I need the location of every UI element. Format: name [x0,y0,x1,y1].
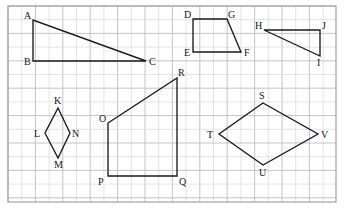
vertex-label-v: V [321,129,329,140]
quad-opqr [108,78,177,176]
vertex-label-q: Q [179,176,187,187]
vertex-label-b: B [24,56,31,67]
geometry-figure: ABCDGFEHJIKNMLORQPSVUT [0,0,344,209]
vertex-label-h: H [255,20,262,31]
vertex-label-g: G [228,9,235,20]
vertex-label-i: I [317,57,320,68]
vertex-label-t: T [207,129,213,140]
vertex-label-a: A [24,10,32,21]
vertex-label-f: F [244,47,250,58]
worksheet-canvas: ABCDGFEHJIKNMLORQPSVUT [0,0,344,209]
triangle-abc [33,20,146,61]
vertex-label-p: P [98,176,104,187]
vertex-label-l: L [34,128,40,139]
vertex-label-n: N [72,128,79,139]
vertex-label-o: O [99,113,106,124]
vertex-label-r: R [178,67,185,78]
vertex-label-u: U [259,167,267,178]
vertex-label-m: M [54,159,63,170]
vertex-label-s: S [259,90,265,101]
vertex-label-d: D [184,9,191,20]
vertex-label-k: K [54,95,62,106]
polygon-group [33,19,320,176]
triangle-hij [264,30,320,56]
vertex-label-c: C [149,56,156,67]
vertex-label-e: E [184,47,190,58]
vertex-label-j: J [322,20,326,31]
